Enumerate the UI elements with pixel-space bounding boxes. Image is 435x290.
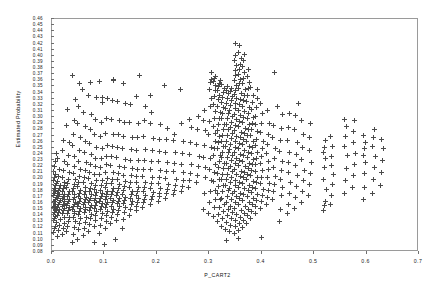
data-point (351, 129, 356, 134)
y-tick-mark (51, 73, 54, 74)
data-point (77, 81, 82, 86)
data-point (148, 121, 153, 126)
data-point (195, 127, 200, 132)
x-tick-label: 0.0 (47, 258, 55, 264)
data-point (86, 93, 91, 98)
y-tick-mark (51, 24, 54, 25)
data-point (209, 70, 214, 75)
data-point (157, 191, 162, 196)
data-point (275, 104, 280, 109)
y-tick-mark (51, 245, 54, 246)
data-point (93, 218, 98, 223)
data-point (75, 121, 80, 126)
x-tick-mark (156, 251, 157, 254)
data-point (255, 87, 260, 92)
x-tick-label: 0.1 (99, 258, 107, 264)
data-point (207, 87, 212, 92)
data-point (295, 173, 300, 178)
data-point (293, 195, 298, 200)
data-point (265, 175, 270, 180)
data-point (180, 184, 185, 189)
data-point (362, 171, 367, 176)
data-point (180, 151, 185, 156)
data-point (172, 188, 177, 193)
data-point (344, 166, 349, 171)
data-point (323, 156, 328, 161)
data-point (102, 242, 107, 247)
data-point (371, 135, 376, 140)
data-point (148, 186, 153, 191)
data-point (331, 172, 336, 177)
data-point (158, 122, 163, 127)
data-point (174, 177, 179, 182)
data-point (108, 221, 113, 226)
data-point (259, 235, 264, 240)
data-point (253, 211, 258, 216)
data-point (120, 226, 125, 231)
data-point (300, 145, 305, 150)
y-tick-label: 0.33 (33, 95, 43, 100)
data-point (149, 181, 154, 186)
data-point (186, 185, 191, 190)
y-tick-mark (51, 30, 54, 31)
data-point (323, 138, 328, 143)
data-point (372, 165, 377, 170)
data-point (148, 167, 153, 172)
data-point (141, 189, 146, 194)
data-point (194, 180, 199, 185)
data-point (322, 145, 327, 150)
data-point (224, 238, 229, 243)
data-point (54, 151, 59, 156)
x-tick-label: 0.6 (361, 258, 369, 264)
data-point (163, 150, 168, 155)
data-point (280, 185, 285, 190)
data-point (258, 206, 263, 211)
data-point (295, 140, 300, 145)
data-point (94, 145, 99, 150)
data-point (248, 85, 253, 90)
data-point (288, 180, 293, 185)
data-point (65, 224, 70, 229)
data-point (128, 102, 133, 107)
data-point (232, 92, 237, 97)
data-point (97, 79, 102, 84)
y-tick-mark (51, 190, 54, 191)
data-point (127, 120, 132, 125)
data-point (194, 142, 199, 147)
data-point (253, 169, 258, 174)
data-point (181, 178, 186, 183)
data-point (236, 124, 241, 129)
data-point (94, 178, 99, 183)
data-point (116, 186, 121, 191)
y-tick-mark (51, 196, 54, 197)
data-point (87, 141, 92, 146)
data-point (362, 185, 367, 190)
y-tick-label: 0.30 (33, 114, 43, 119)
data-point (157, 149, 162, 154)
data-point (343, 178, 348, 183)
data-point (188, 140, 193, 145)
data-point (342, 191, 347, 196)
x-tick-mark (103, 251, 104, 254)
y-tick-mark (51, 226, 54, 227)
x-tick-mark (51, 251, 52, 254)
y-tick-mark (51, 92, 54, 93)
data-point (164, 191, 169, 196)
data-point (306, 193, 311, 198)
data-point (285, 211, 290, 216)
data-point (244, 221, 249, 226)
data-point (172, 161, 177, 166)
x-tick-mark (261, 251, 262, 254)
y-tick-mark (51, 18, 54, 19)
data-point (70, 143, 75, 148)
data-point (299, 200, 304, 205)
data-point (134, 174, 139, 179)
data-point (120, 146, 125, 151)
data-point (232, 58, 237, 63)
y-tick-label: 0.18 (33, 187, 43, 192)
data-point (379, 137, 384, 142)
data-point (130, 166, 135, 171)
data-point (342, 117, 347, 122)
data-point (165, 187, 170, 192)
data-point (342, 144, 347, 149)
